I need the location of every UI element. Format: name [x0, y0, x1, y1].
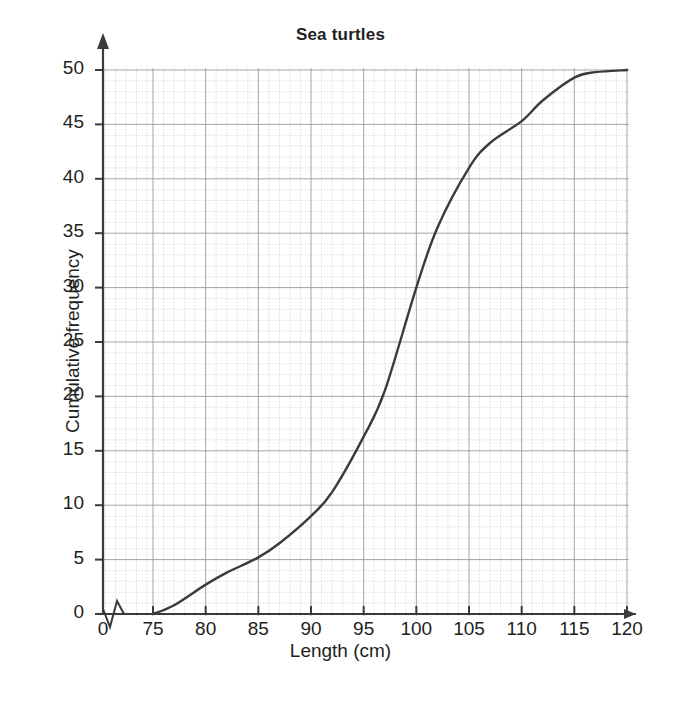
y-tick-label: 40 [22, 166, 84, 188]
y-tick-label: 10 [22, 492, 84, 514]
y-tick-label: 45 [22, 111, 84, 133]
x-tick-label: 80 [176, 618, 236, 640]
x-tick-label: 100 [386, 618, 446, 640]
x-tick-label: 90 [281, 618, 341, 640]
y-axis-arrow-icon [97, 33, 109, 49]
x-tick-label: 105 [439, 618, 499, 640]
axes [103, 40, 636, 614]
y-tick-label: 5 [22, 547, 84, 569]
y-tick-label: 15 [22, 438, 84, 460]
grid-major [103, 68, 629, 616]
x-tick-label: 85 [228, 618, 288, 640]
y-tick-label: 20 [22, 383, 84, 405]
chart-plot-svg [0, 0, 681, 707]
y-tick-label: 30 [22, 275, 84, 297]
y-tick-label: 50 [22, 57, 84, 79]
x-tick-label: 115 [544, 618, 604, 640]
x-tick-label: 120 [597, 618, 657, 640]
x-tick-label: 95 [334, 618, 394, 640]
y-tick-label: 35 [22, 220, 84, 242]
chart-canvas: Sea turtles Cumulative frequency Length … [0, 0, 681, 707]
x-tick-label: 75 [123, 618, 183, 640]
y-tick-label: 25 [22, 329, 84, 351]
y-tick-label: 0 [22, 601, 84, 623]
x-tick-label: 110 [492, 618, 552, 640]
x-axis-label: Length (cm) [0, 640, 681, 662]
